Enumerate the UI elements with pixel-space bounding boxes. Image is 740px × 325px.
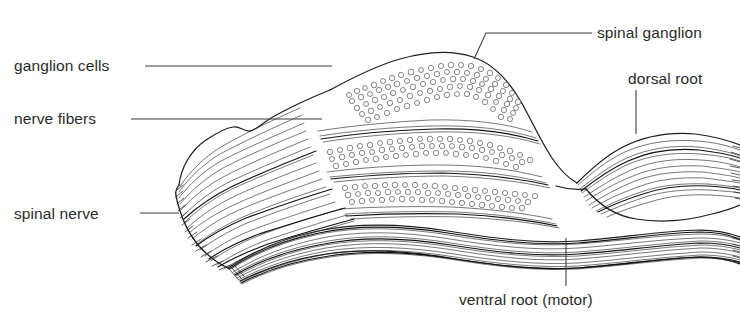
label-spinal-nerve: spinal nerve [14,205,99,222]
anatomical-illustration: ganglion cells nerve fibers spinal nerve… [0,0,740,325]
label-nerve-fibers: nerve fibers [14,110,96,127]
label-spinal-ganglion: spinal ganglion [597,24,702,41]
label-dorsal-root: dorsal root [628,70,703,87]
label-ganglion-cells: ganglion cells [14,57,109,74]
figure-canvas: ganglion cells nerve fibers spinal nerve… [0,0,740,325]
background [0,0,740,325]
label-ventral-root: ventral root (motor) [459,291,593,308]
